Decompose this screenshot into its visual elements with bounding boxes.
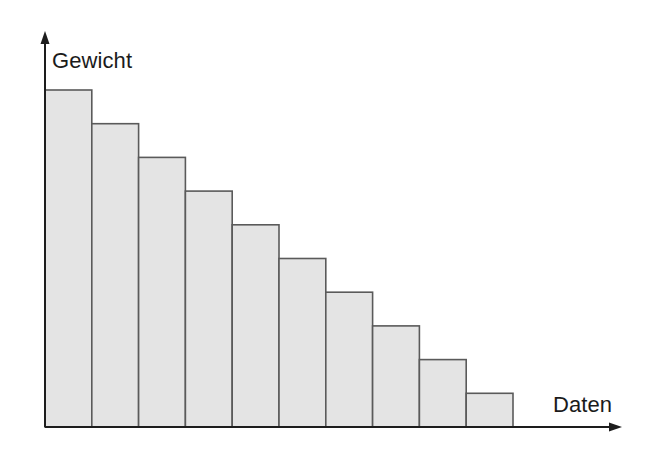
- bar: [466, 393, 513, 427]
- bar: [139, 157, 186, 427]
- bar: [419, 360, 466, 427]
- y-axis-arrow-icon: [41, 31, 50, 44]
- bar-chart-figure: Gewicht Daten: [0, 0, 659, 451]
- bar-series: [45, 90, 513, 427]
- x-axis-arrow-icon: [609, 423, 622, 432]
- chart-canvas: Gewicht Daten: [0, 0, 659, 451]
- bar: [45, 90, 92, 427]
- bar: [185, 191, 232, 427]
- y-axis-label: Gewicht: [52, 48, 132, 73]
- bar: [326, 292, 373, 427]
- bar: [279, 259, 326, 428]
- x-axis-label: Daten: [553, 392, 612, 417]
- bar: [232, 225, 279, 427]
- bar: [92, 124, 139, 427]
- bar: [373, 326, 420, 427]
